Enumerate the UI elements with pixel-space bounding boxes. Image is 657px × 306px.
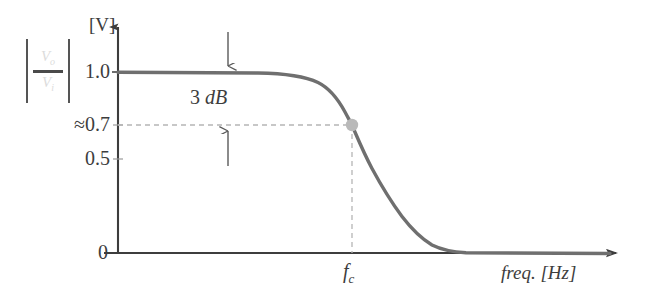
bandwidth-annotation-unit: dB (200, 86, 227, 108)
y-tick-label-0p7: ≈0.7 (40, 113, 110, 136)
x-axis-label: freq. [Hz] (501, 262, 576, 284)
x-tick-label-fc: fc (343, 260, 354, 287)
figure-canvas: Vo Vi [V] 1.0 ≈0.7 0.5 0 3 dB fc freq. [… (0, 0, 657, 306)
y-tick-label-1p0: 1.0 (56, 60, 110, 83)
bandwidth-annotation-value: 3 (190, 86, 200, 108)
gain-fraction-numerator: Vo (41, 49, 55, 68)
y-tick-label-0p5: 0.5 (56, 147, 110, 170)
y-axis-unit-label: [V] (89, 14, 115, 36)
fc-subscript: c (349, 271, 355, 286)
cutoff-point-marker (346, 119, 358, 131)
gain-fraction-denominator: Vi (42, 75, 54, 94)
bandwidth-annotation-label: 3 dB (190, 86, 227, 109)
y-tick-label-0: 0 (70, 241, 108, 264)
